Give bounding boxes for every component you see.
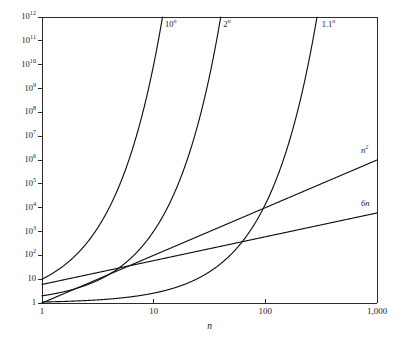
- curves-group: [42, 17, 377, 303]
- x-tick-label: 1: [12, 307, 72, 316]
- curve-1-1-n: [42, 17, 317, 302]
- y-tick-label: 105: [24, 179, 36, 188]
- x-axis-title: n: [180, 321, 240, 331]
- axes-group: [42, 17, 377, 303]
- y-tick-label: 1010: [21, 60, 36, 69]
- curve-n-2: [42, 160, 377, 303]
- x-tick-label: 100: [235, 307, 295, 316]
- y-tick-label: 107: [24, 131, 36, 140]
- y-tick-label: 102: [24, 250, 36, 259]
- curve-2-n: [42, 17, 221, 296]
- y-tick-label: 1011: [22, 36, 36, 45]
- curve-label-6n: 6n: [361, 199, 370, 208]
- x-tick-label: 1,000: [347, 307, 406, 316]
- curve-6n: [42, 213, 377, 285]
- curve-10-n: [42, 17, 163, 279]
- x-tick-label: 10: [124, 307, 184, 316]
- y-tick-label: 106: [24, 155, 36, 164]
- y-tick-label: 1012: [21, 12, 36, 21]
- y-tick-label: 109: [24, 84, 36, 93]
- curve-label-n-2: n2: [361, 146, 368, 155]
- y-tick-label: 103: [24, 227, 36, 236]
- curve-label-2-n: 2n: [223, 20, 230, 29]
- y-tick-label: 10: [28, 274, 37, 283]
- y-tick-label: 108: [24, 107, 36, 116]
- curve-label-10-n: 10n: [165, 20, 177, 29]
- y-tick-label: 104: [24, 203, 36, 212]
- plot-canvas: [0, 0, 406, 338]
- y-tick-label: 1: [32, 298, 36, 307]
- ticks-group: [38, 17, 377, 303]
- growth-rates-chart: 110102103104105106107108109101010111012 …: [0, 0, 406, 338]
- curve-label-1-1-n: 1.1n: [322, 20, 336, 29]
